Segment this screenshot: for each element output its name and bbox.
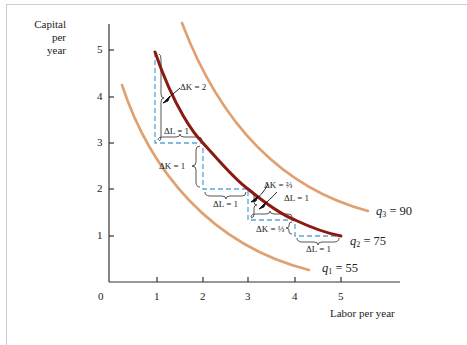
y-tick-2: 2 — [97, 183, 103, 194]
y-axis-title: Capital per year — [26, 18, 66, 57]
x-tick-0: 0 — [98, 291, 104, 302]
annotation-dk-2-3: ΔK = ⅔ — [264, 181, 293, 190]
label-q1: q1 = 55 — [322, 262, 358, 276]
y-tick-1: 1 — [97, 230, 103, 241]
q2-value: = 75 — [360, 234, 386, 248]
x-tick-2: 2 — [200, 291, 206, 302]
y-axis-title-line2: per — [26, 31, 66, 44]
y-tick-4: 4 — [97, 91, 103, 102]
label-q2: q2 = 75 — [350, 235, 386, 249]
q1-value: = 55 — [332, 261, 358, 275]
annotation-dl-1a: ΔL = 1 — [164, 127, 189, 136]
annotation-dl-1b: ΔL = 1 — [213, 200, 238, 209]
annotation-dk-1: ΔK = 1 — [159, 162, 185, 171]
annotation-dk-1-3: ΔK = ⅓ — [256, 225, 285, 234]
x-tick-3: 3 — [245, 291, 251, 302]
y-tick-3: 3 — [97, 137, 103, 148]
annotation-dk-2: ΔK = 2 — [180, 83, 206, 92]
y-tick-5: 5 — [97, 44, 103, 55]
x-tick-4: 4 — [292, 291, 298, 302]
x-tick-1: 1 — [154, 291, 160, 302]
isoquant-q1-curve — [122, 85, 309, 270]
y-axis-title-line3: year — [26, 44, 66, 57]
annotation-dl-1d: ΔL = 1 — [306, 245, 331, 254]
annotation-dl-1c: ΔL = 1 — [284, 194, 309, 203]
label-q3: q3 = 90 — [376, 205, 412, 219]
x-axis-title: Labor per year — [330, 307, 395, 320]
staircase-steps — [155, 52, 341, 236]
q3-value: = 90 — [386, 204, 412, 218]
x-tick-5: 5 — [338, 291, 344, 302]
y-axis-title-line1: Capital — [26, 18, 66, 31]
